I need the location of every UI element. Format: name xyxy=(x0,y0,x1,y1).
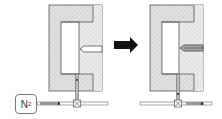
n2-subscript: 2 xyxy=(28,101,31,107)
gas-line-before xyxy=(37,100,108,107)
gas-line-after xyxy=(140,100,212,107)
ejector-pin-retracted xyxy=(80,46,102,52)
mold-before xyxy=(49,5,102,104)
gas-assisted-molding-diagram: N2 xyxy=(0,0,222,119)
valve-icon xyxy=(74,100,81,107)
valve-icon xyxy=(175,100,182,107)
n2-gas-source: N2 xyxy=(15,94,37,114)
n2-label: N xyxy=(21,99,28,110)
mold-after xyxy=(150,5,203,104)
arrow-right-icon xyxy=(114,37,138,53)
